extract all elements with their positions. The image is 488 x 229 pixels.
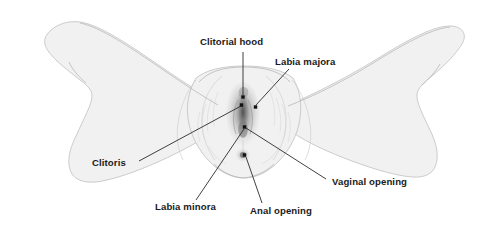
label-clitoris: Clitoris [92,157,126,168]
label-vaginal-opening: Vaginal opening [332,176,407,187]
diagram-canvas: Clitorial hood Labia majora Clitoris Lab… [0,0,488,229]
anchor-dot-labia-minora-vaginal [243,125,246,128]
anatomical-diagram: Clitorial hood Labia majora Clitoris Lab… [0,0,488,229]
label-anal-opening: Anal opening [250,205,312,216]
right-leg [288,26,464,177]
label-labia-minora: Labia minora [155,201,216,212]
anchor-dot-clitoris [240,103,243,106]
label-clitorial-hood: Clitorial hood [200,36,263,47]
anchor-dot-labia-majora [254,105,257,108]
label-labia-majora: Labia majora [275,56,336,67]
anchor-dot-clitorial-hood [241,95,244,98]
anchor-dot-anal-opening [243,153,246,156]
